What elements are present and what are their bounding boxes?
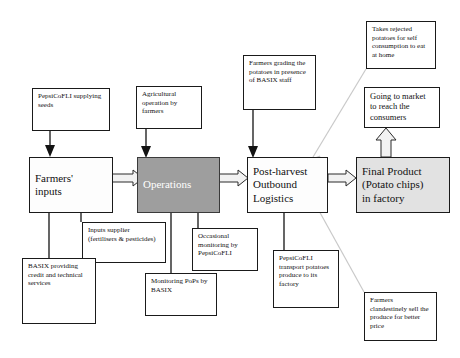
note-takes-rejected-potatoes[interactable]: Takes rejected potatoes for self consump… <box>366 21 436 69</box>
arrow-postharvest-to-final <box>328 170 356 186</box>
arrow-grading-to-postharvest <box>248 110 258 158</box>
chain-box-farmers-inputs[interactable]: Farmers' inputs <box>29 157 113 213</box>
note-pepsico-supplying-seeds[interactable]: PepsiCoFLI supplying seeds <box>32 88 110 131</box>
arrow-agri-to-operations <box>141 129 151 158</box>
final-product-line1: Final Product <box>362 165 422 177</box>
note-going-to-market[interactable]: Going to market to reach the consumers <box>364 87 440 128</box>
chain-box-final-product[interactable]: Final Product (Potato chips) in factory <box>356 157 450 213</box>
chain-box-post-harvest[interactable]: Post-harvest Outbound Logistics <box>247 157 328 213</box>
note-farmers-clandestine[interactable]: Farmers clandestinely sell the produce f… <box>364 292 437 341</box>
note-monitoring-pops-text: Monitoring PoPs by BASIX <box>151 277 211 294</box>
note-basix-credit[interactable]: BASIX providing credit and technical ser… <box>22 258 96 324</box>
connector-postharvest-to-rejected <box>309 69 366 165</box>
final-product-line3: in factory <box>362 192 404 204</box>
note-inputs-supplier-text: Inputs supplier (fertilisers & pesticide… <box>88 226 160 243</box>
chain-box-operations[interactable]: Operations <box>137 157 220 213</box>
note-pepsico-seeds-text: PepsiCoFLI supplying seeds <box>38 92 104 109</box>
arrow-final-to-market <box>376 128 396 157</box>
note-occasional-monitoring[interactable]: Occasional monitoring by PepsiCoFLI <box>192 228 258 271</box>
farmers-inputs-line1: Farmers' <box>35 172 73 184</box>
note-monitoring-pops[interactable]: Monitoring PoPs by BASIX <box>145 273 217 316</box>
arrow-operations-to-postharvest <box>219 170 248 186</box>
note-pepsico-transport-text: PepsiCoFLI transport potatoes produce to… <box>279 254 333 288</box>
flow-diagram-canvas: Farmers' inputs Operations Post-harvest … <box>0 0 460 358</box>
arrow-seeds-to-inputs <box>45 131 55 157</box>
note-occasional-monitoring-text: Occasional monitoring by PepsiCoFLI <box>198 232 252 258</box>
note-agricultural-operation-text: Agricultural operation by farmers <box>142 90 196 116</box>
operations-label: Operations <box>143 178 191 191</box>
final-product-line2: (Potato chips) <box>362 178 423 190</box>
post-harvest-line2: Outbound <box>253 178 297 190</box>
note-basix-credit-text: BASIX providing credit and technical ser… <box>28 262 90 288</box>
note-farmers-grading[interactable]: Farmers grading the potatoes in presence… <box>243 55 316 110</box>
post-harvest-line1: Post-harvest <box>253 165 307 177</box>
note-takes-rejected-text: Takes rejected potatoes for self consump… <box>372 25 430 59</box>
note-agricultural-operation[interactable]: Agricultural operation by farmers <box>136 86 202 129</box>
note-going-to-market-text: Going to market to reach the consumers <box>370 91 434 122</box>
note-inputs-supplier[interactable]: Inputs supplier (fertilisers & pesticide… <box>82 222 166 263</box>
note-pepsico-transport[interactable]: PepsiCoFLI transport potatoes produce to… <box>273 250 339 308</box>
note-farmers-clandestine-text: Farmers clandestinely sell the produce f… <box>370 296 431 330</box>
farmers-inputs-line2: inputs <box>35 185 62 197</box>
post-harvest-line3: Logistics <box>253 192 293 204</box>
note-farmers-grading-text: Farmers grading the potatoes in presence… <box>249 59 310 85</box>
